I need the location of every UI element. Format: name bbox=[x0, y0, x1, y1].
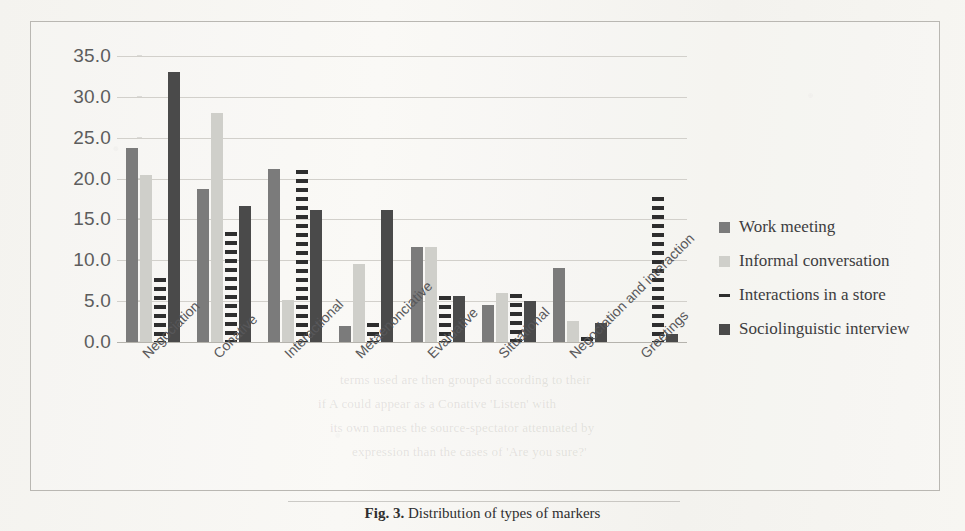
bar bbox=[353, 264, 365, 342]
bar bbox=[282, 300, 294, 342]
bar-group bbox=[260, 56, 331, 342]
y-axis-tick-label: 5.0 bbox=[84, 290, 111, 312]
y-axis: 35.030.025.020.015.010.05.00.0 bbox=[57, 56, 111, 342]
page-rule bbox=[288, 501, 680, 502]
legend-item-label: Work meeting bbox=[739, 217, 835, 237]
legend-item-label: Sociolinguistic interview bbox=[739, 319, 909, 339]
y-axis-tick-label: 0.0 bbox=[84, 331, 111, 353]
bar-group bbox=[473, 56, 544, 342]
bar bbox=[482, 305, 494, 342]
legend-item-label: Informal conversation bbox=[739, 251, 890, 271]
legend-item[interactable]: Informal conversation bbox=[719, 244, 939, 278]
legend-item[interactable]: Sociolinguistic interview bbox=[719, 312, 939, 346]
swatch-dashed-line-icon bbox=[719, 290, 730, 301]
figure-caption-text: Distribution of types of markers bbox=[408, 505, 600, 521]
chart-figure: 35.030.025.020.015.010.05.00.0 Negociati… bbox=[30, 21, 940, 491]
bar-group bbox=[117, 56, 188, 342]
chart-legend: Work meetingInformal conversationInterac… bbox=[719, 210, 939, 346]
bar-group bbox=[545, 56, 616, 342]
legend-item-label: Interactions in a store bbox=[739, 285, 886, 305]
bar-group bbox=[188, 56, 259, 342]
swatch-black-icon bbox=[719, 324, 730, 335]
bar bbox=[339, 326, 351, 342]
x-axis: NegociationConativeInteractionalMetaenon… bbox=[117, 342, 687, 462]
y-axis-tick-label: 15.0 bbox=[73, 208, 111, 230]
bar bbox=[211, 113, 223, 342]
y-axis-tick-label: 20.0 bbox=[73, 168, 111, 190]
bar bbox=[140, 175, 152, 343]
bar bbox=[496, 293, 508, 342]
bar-group bbox=[331, 56, 402, 342]
y-axis-tick-label: 10.0 bbox=[73, 249, 111, 271]
bar bbox=[268, 169, 280, 342]
figure-caption: Fig. 3. Distribution of types of markers bbox=[0, 505, 965, 522]
y-axis-tick-label: 25.0 bbox=[73, 127, 111, 149]
legend-item[interactable]: Interactions in a store bbox=[719, 278, 939, 312]
bar bbox=[197, 189, 209, 342]
legend-item[interactable]: Work meeting bbox=[719, 210, 939, 244]
bar bbox=[168, 72, 180, 342]
y-axis-tick-label: 30.0 bbox=[73, 86, 111, 108]
bar bbox=[296, 170, 308, 342]
figure-number: Fig. 3. bbox=[365, 505, 405, 521]
y-axis-tick-label: 35.0 bbox=[73, 45, 111, 67]
swatch-dark-gray-icon bbox=[719, 222, 730, 233]
swatch-light-gray-icon bbox=[719, 256, 730, 267]
bar bbox=[553, 268, 565, 342]
bar bbox=[126, 148, 138, 342]
